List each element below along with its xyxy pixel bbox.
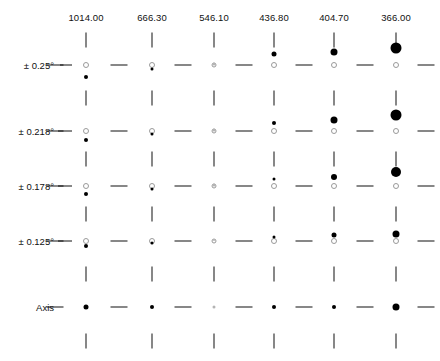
filled-marker-r4-c0 bbox=[84, 305, 89, 310]
filled-marker-r0-c2 bbox=[213, 63, 216, 66]
filled-marker-r2-c1 bbox=[151, 188, 154, 191]
filled-marker-r3-c3 bbox=[273, 236, 276, 239]
grid-dash-r1-s5 bbox=[357, 131, 374, 132]
filled-marker-r2-c3 bbox=[273, 178, 276, 181]
grid-dash-r3-s1 bbox=[111, 241, 128, 242]
tick-c2-t1 bbox=[214, 91, 215, 106]
open-marker-r3-c4 bbox=[331, 238, 337, 244]
tick-c1-t5 bbox=[152, 334, 153, 349]
grid-dash-r4-s5 bbox=[357, 307, 374, 308]
tick-c5-t1 bbox=[396, 91, 397, 106]
tick-c3-t2 bbox=[274, 151, 275, 166]
filled-marker-r3-c1 bbox=[151, 242, 154, 245]
filled-marker-r1-c0 bbox=[84, 138, 88, 142]
open-marker-r3-c3 bbox=[271, 238, 277, 244]
grid-dash-r3-s2 bbox=[175, 241, 192, 242]
filled-marker-r1-c4 bbox=[331, 117, 338, 124]
tick-c2-t2 bbox=[214, 151, 215, 166]
filled-marker-r4-c3 bbox=[272, 305, 276, 309]
filled-marker-r1-c2 bbox=[213, 129, 216, 132]
grid-dash-r0-s6 bbox=[418, 65, 435, 66]
filled-marker-r2-c0 bbox=[84, 192, 88, 196]
tick-c0-t3 bbox=[86, 206, 87, 221]
open-marker-r0-c3 bbox=[271, 62, 277, 68]
grid-dash-r2-s6 bbox=[418, 186, 435, 187]
grid-dash-r3-s4 bbox=[296, 241, 313, 242]
filled-marker-r0-c1 bbox=[151, 68, 154, 71]
open-marker-r0-c5 bbox=[393, 62, 399, 68]
open-marker-r1-c3 bbox=[271, 128, 277, 134]
tick-c3-t0 bbox=[274, 33, 275, 48]
filled-marker-r4-c2 bbox=[213, 306, 216, 309]
filled-marker-r3-c0 bbox=[84, 244, 88, 248]
tick-c0-t2 bbox=[86, 151, 87, 166]
grid-dash-r0-s3 bbox=[236, 65, 253, 66]
grid-dash-r3-s5 bbox=[357, 241, 374, 242]
grid-dash-r4-s2 bbox=[175, 307, 192, 308]
column-label-1: 666.30 bbox=[137, 12, 167, 23]
filled-marker-r4-c4 bbox=[332, 305, 336, 309]
grid-dash-r2-s0 bbox=[47, 186, 64, 187]
grid-dash-r0-s0 bbox=[47, 65, 64, 66]
filled-marker-r4-c5 bbox=[393, 304, 400, 311]
tick-c2-t5 bbox=[214, 334, 215, 349]
grid-dash-r0-s2 bbox=[175, 65, 192, 66]
open-marker-r2-c0 bbox=[83, 183, 89, 189]
filled-marker-r1-c5 bbox=[391, 110, 402, 121]
filled-marker-r2-c4 bbox=[331, 174, 337, 180]
tick-c1-t2 bbox=[152, 151, 153, 166]
grid-dash-r3-s0 bbox=[47, 241, 64, 242]
tick-c3-t4 bbox=[274, 267, 275, 282]
open-marker-r1-c5 bbox=[393, 128, 399, 134]
grid-dash-r3-s6 bbox=[418, 241, 435, 242]
tick-c0-t1 bbox=[86, 91, 87, 106]
grid-dash-r2-s2 bbox=[175, 186, 192, 187]
tick-c3-t5 bbox=[274, 334, 275, 349]
tick-c4-t3 bbox=[334, 206, 335, 221]
grid-dash-r0-s5 bbox=[357, 65, 374, 66]
filled-marker-r0-c3 bbox=[272, 52, 277, 57]
filled-marker-r0-c0 bbox=[84, 75, 88, 79]
open-marker-r0-c4 bbox=[331, 62, 337, 68]
tick-c3-t1 bbox=[274, 91, 275, 106]
grid-dash-r4-s4 bbox=[296, 307, 313, 308]
tick-c0-t4 bbox=[86, 267, 87, 282]
grid-dash-r2-s3 bbox=[236, 186, 253, 187]
grid-dash-r3-s3 bbox=[236, 241, 253, 242]
grid-dash-r2-s4 bbox=[296, 186, 313, 187]
tick-c0-t5 bbox=[86, 334, 87, 349]
tick-c1-t4 bbox=[152, 267, 153, 282]
tick-c0-t0 bbox=[86, 33, 87, 48]
tick-c1-t0 bbox=[152, 33, 153, 48]
grid-dash-r1-s2 bbox=[175, 131, 192, 132]
open-marker-r3-c5 bbox=[393, 238, 399, 244]
tick-c4-t1 bbox=[334, 91, 335, 106]
grid-dash-r4-s0 bbox=[47, 307, 64, 308]
tick-c5-t3 bbox=[396, 206, 397, 221]
column-label-5: 366.00 bbox=[381, 12, 411, 23]
tick-c5-t2 bbox=[396, 151, 397, 166]
tick-c5-t5 bbox=[396, 334, 397, 349]
filled-marker-r3-c5 bbox=[393, 231, 400, 238]
grid-dash-r4-s3 bbox=[236, 307, 253, 308]
tick-c4-t4 bbox=[334, 267, 335, 282]
tick-c1-t1 bbox=[152, 91, 153, 106]
filled-marker-r0-c5 bbox=[391, 43, 402, 54]
column-label-2: 546.10 bbox=[199, 12, 229, 23]
filled-marker-r4-c1 bbox=[150, 305, 154, 309]
grid-dash-r0-s4 bbox=[296, 65, 313, 66]
filled-marker-r0-c4 bbox=[331, 49, 338, 56]
open-marker-r1-c0 bbox=[83, 128, 89, 134]
open-marker-r1-c4 bbox=[331, 128, 337, 134]
tick-c4-t5 bbox=[334, 334, 335, 349]
open-marker-r0-c0 bbox=[83, 62, 89, 68]
filled-marker-r2-c5 bbox=[391, 167, 401, 177]
grid-dash-r1-s1 bbox=[111, 131, 128, 132]
open-marker-r2-c5 bbox=[393, 183, 399, 189]
tick-c3-t3 bbox=[274, 206, 275, 221]
grid-dash-r4-s1 bbox=[111, 307, 128, 308]
open-marker-r2-c4 bbox=[331, 183, 337, 189]
filled-marker-r1-c1 bbox=[151, 133, 154, 136]
grid-dash-r1-s0 bbox=[47, 131, 64, 132]
tick-c2-t4 bbox=[214, 267, 215, 282]
